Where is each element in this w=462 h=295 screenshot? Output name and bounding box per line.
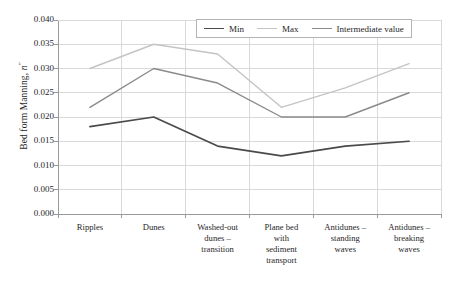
x-axis-label-line: Dunes (122, 222, 186, 233)
x-axis-label-line: Washed-out (186, 222, 250, 233)
legend-swatch-icon (204, 28, 224, 29)
x-axis-category-label: Dunes (122, 222, 186, 233)
x-axis-category-label: Washed-outdunes –transition (186, 222, 250, 255)
x-axis-category-labels: RipplesDunesWashed-outdunes –transitionP… (0, 0, 462, 295)
legend-label: Max (282, 24, 299, 34)
legend-item-max[interactable]: Max (257, 24, 299, 34)
x-axis-category-label: Antidunes –standingwaves (313, 222, 377, 255)
x-axis-category-label: Plane bedwithsedimenttransport (250, 222, 314, 266)
x-axis-label-line: Antidunes – (377, 222, 441, 233)
x-axis-label-line: Antidunes – (313, 222, 377, 233)
x-axis-label-line: waves (313, 244, 377, 255)
x-axis-label-line: waves (377, 244, 441, 255)
legend-label: Min (229, 24, 244, 34)
x-axis-label-line: breaking (377, 233, 441, 244)
x-axis-label-line: sediment (250, 244, 314, 255)
x-axis-label-line: transition (186, 244, 250, 255)
legend-item-intermediate-value[interactable]: Intermediate value (312, 24, 404, 34)
legend-item-min[interactable]: Min (204, 24, 244, 34)
x-axis-label-line: Plane bed (250, 222, 314, 233)
x-axis-label-line: standing (313, 233, 377, 244)
bed-form-manning-line-chart: Bed form Manning, n″ 0.0400.0350.0300.02… (0, 0, 462, 295)
legend-swatch-icon (257, 28, 277, 29)
x-axis-label-line: transport (250, 255, 314, 266)
x-axis-category-label: Antidunes –breakingwaves (377, 222, 441, 255)
x-axis-label-line: with (250, 233, 314, 244)
legend-swatch-icon (312, 28, 332, 29)
x-axis-label-line: dunes – (186, 233, 250, 244)
x-axis-label-line: Ripples (58, 222, 122, 233)
chart-legend: MinMaxIntermediate value (196, 19, 412, 38)
x-axis-category-label: Ripples (58, 222, 122, 233)
legend-label: Intermediate value (337, 24, 404, 34)
